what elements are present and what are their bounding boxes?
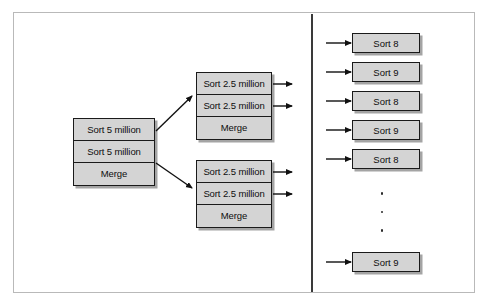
intermediate-node-group-1: Sort 2.5 million Sort 2.5 million Merge (196, 72, 272, 140)
leaf-node-box: Sort 8 (352, 33, 420, 53)
intermediate-node-group-2: Sort 2.5 million Sort 2.5 million Merge (196, 160, 272, 228)
cell-merge: Merge (197, 117, 271, 139)
ellipsis-dot (381, 192, 384, 195)
diagram-canvas: Sort 5 million Sort 5 million Merge Sort… (0, 0, 490, 307)
leaf-node-box: Sort 9 (352, 120, 420, 140)
ellipsis-dot (381, 229, 384, 232)
leaf-node-box: Sort 9 (352, 62, 420, 82)
vertical-ellipsis-icon (378, 192, 386, 240)
cell-sort-2-5-million-b: Sort 2.5 million (197, 183, 271, 205)
master-node-group: Sort 5 million Sort 5 million Merge (73, 118, 155, 186)
cell-merge: Merge (74, 163, 154, 185)
column-divider (311, 14, 313, 292)
cell-sort-2-5-million-b: Sort 2.5 million (197, 95, 271, 117)
cell-sort-2-5-million-a: Sort 2.5 million (197, 161, 271, 183)
cell-sort-5-million-a: Sort 5 million (74, 119, 154, 141)
leaf-node-box: Sort 8 (352, 91, 420, 111)
cell-sort-5-million-b: Sort 5 million (74, 141, 154, 163)
cell-merge: Merge (197, 205, 271, 227)
cell-sort-2-5-million-a: Sort 2.5 million (197, 73, 271, 95)
leaf-node-box: Sort 8 (352, 149, 420, 169)
leaf-node-box: Sort 9 (352, 252, 420, 272)
ellipsis-dot (381, 211, 384, 214)
